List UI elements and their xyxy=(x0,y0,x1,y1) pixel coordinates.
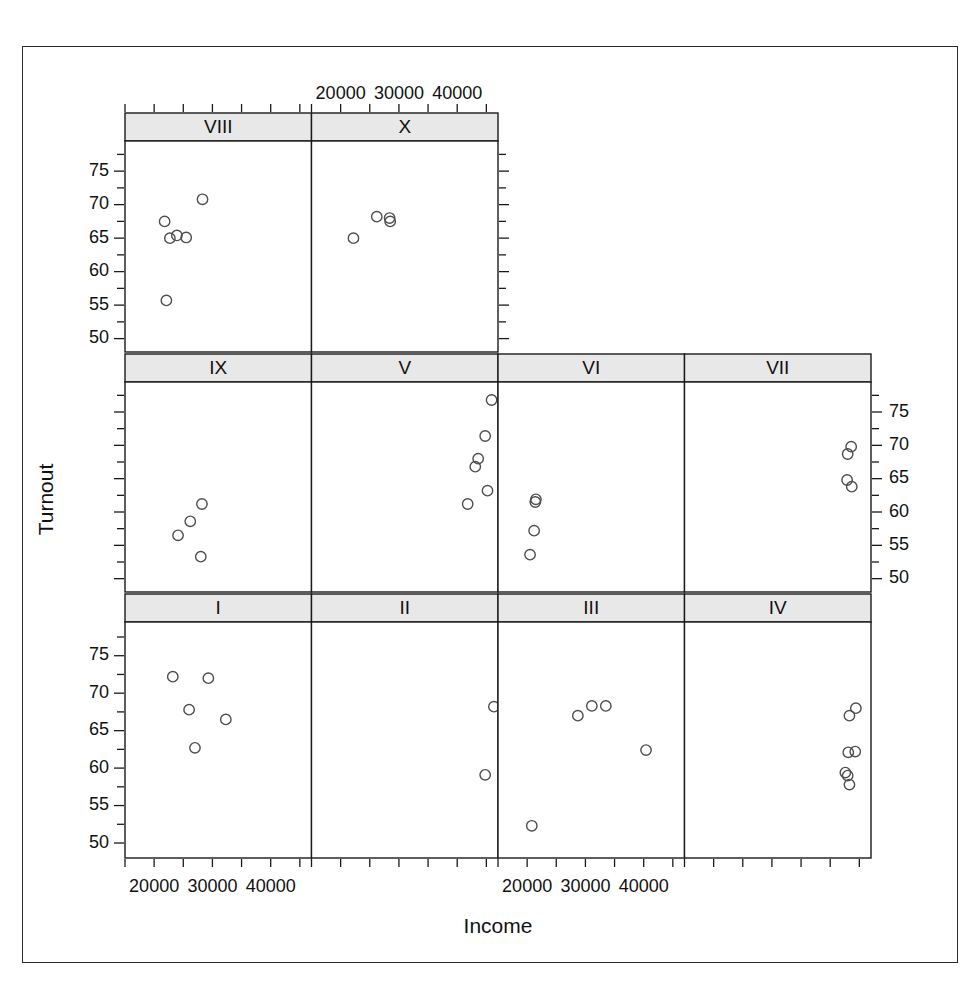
panel-strip-label-VIII: VIII xyxy=(204,116,233,137)
panel-X xyxy=(312,141,499,352)
panel-IV xyxy=(685,622,872,858)
y-tick-label: 50 xyxy=(89,327,109,347)
scatter-matrix-svg: VIIIXIXVVIVIIIIIIIIIV2000030000400002000… xyxy=(0,0,975,995)
y-axis-title: Turnout xyxy=(34,464,57,536)
y-tick-label: 70 xyxy=(889,434,909,454)
panel-strip-label-VI: VI xyxy=(582,357,600,378)
figure-page: VIIIXIXVVIVIIIIIIIIIV2000030000400002000… xyxy=(0,0,975,995)
y-tick-label: 55 xyxy=(889,534,909,554)
panel-II xyxy=(312,622,499,858)
y-tick-label: 65 xyxy=(889,467,909,487)
x-tick-label: 40000 xyxy=(246,876,296,896)
y-tick-label: 60 xyxy=(89,757,109,777)
panel-I xyxy=(125,622,312,858)
y-tick-label: 75 xyxy=(89,644,109,664)
y-tick-label: 60 xyxy=(89,260,109,280)
x-tick-label: 20000 xyxy=(502,876,552,896)
panel-VIII xyxy=(125,141,312,352)
trellis-plot: VIIIXIXVVIVIIIIIIIIIV2000030000400002000… xyxy=(0,0,975,995)
x-tick-label: 30000 xyxy=(374,83,424,103)
x-tick-label: 20000 xyxy=(129,876,179,896)
y-tick-label: 75 xyxy=(89,160,109,180)
x-tick-label: 40000 xyxy=(619,876,669,896)
y-tick-label: 65 xyxy=(89,227,109,247)
panel-VI xyxy=(498,382,685,592)
y-tick-label: 70 xyxy=(89,193,109,213)
panel-strip-label-II: II xyxy=(399,597,410,618)
y-tick-label: 65 xyxy=(89,719,109,739)
panel-V xyxy=(312,382,499,592)
panel-strip-label-III: III xyxy=(583,597,599,618)
y-tick-label: 50 xyxy=(889,567,909,587)
panel-VII xyxy=(685,382,872,592)
x-tick-label: 40000 xyxy=(432,83,482,103)
y-tick-label: 55 xyxy=(89,794,109,814)
y-tick-label: 55 xyxy=(89,294,109,314)
x-tick-label: 20000 xyxy=(316,83,366,103)
y-tick-label: 50 xyxy=(89,832,109,852)
x-tick-label: 30000 xyxy=(187,876,237,896)
y-tick-label: 60 xyxy=(889,501,909,521)
panel-III xyxy=(498,622,685,858)
x-tick-label: 30000 xyxy=(560,876,610,896)
x-axis-title: Income xyxy=(464,914,533,937)
y-tick-label: 75 xyxy=(889,401,909,421)
panel-strip-label-IX: IX xyxy=(209,357,227,378)
panel-strip-label-VII: VII xyxy=(766,357,789,378)
panel-strip-label-I: I xyxy=(216,597,221,618)
panel-strip-label-X: X xyxy=(398,116,411,137)
panel-IX xyxy=(125,382,312,592)
panel-strip-label-V: V xyxy=(398,357,411,378)
panel-strip-label-IV: IV xyxy=(769,597,787,618)
y-tick-label: 70 xyxy=(89,682,109,702)
